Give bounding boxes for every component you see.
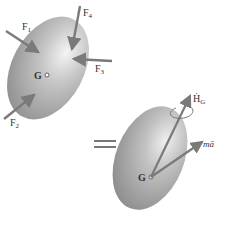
force-f4-label: F4 xyxy=(83,8,92,20)
equals-sign xyxy=(94,140,116,150)
diagram-canvas xyxy=(0,0,225,230)
center-label-left: G xyxy=(34,71,42,81)
angular-momentum-rate-label: ḢG xyxy=(193,94,205,106)
center-of-mass-marker xyxy=(45,73,49,77)
force-f1-label: F1 xyxy=(22,22,31,34)
force-f3-label: F3 xyxy=(95,64,104,76)
center-label-right: G xyxy=(138,173,146,183)
force-f2-label: F2 xyxy=(10,118,19,130)
linear-term-label: mā xyxy=(203,140,214,149)
right-body xyxy=(98,95,202,221)
